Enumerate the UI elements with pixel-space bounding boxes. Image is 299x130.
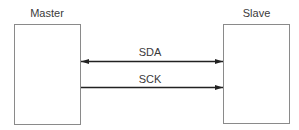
connection-lines xyxy=(0,0,299,130)
arrowhead-left-icon xyxy=(81,59,89,64)
arrowhead-right-icon xyxy=(215,59,223,64)
arrowhead-right-icon xyxy=(215,85,223,90)
sck-arrow xyxy=(81,85,223,90)
sda-arrow xyxy=(81,59,223,64)
